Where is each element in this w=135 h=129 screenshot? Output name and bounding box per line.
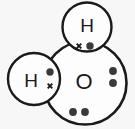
electron-dot-bond-top-dot: [86, 42, 93, 49]
electron-dot-lone-right-upper: [109, 67, 117, 75]
electron-dot-bond-left-dot: [46, 68, 53, 75]
atom-label-hydrogen-top: H: [80, 15, 94, 36]
atom-label-hydrogen-left: H: [24, 70, 38, 91]
molecule-canvas: OHH: [0, 0, 135, 129]
electron-dot-lone-bottom-right: [81, 108, 89, 116]
electron-dot-lone-bottom-left: [69, 108, 77, 116]
atom-label-oxygen: O: [75, 69, 92, 94]
dot-and-cross-diagram: OHH: [0, 0, 135, 129]
electron-dot-lone-right-lower: [109, 79, 117, 87]
